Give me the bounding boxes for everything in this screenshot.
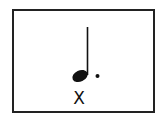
augmentation-dot (96, 74, 100, 78)
note-label: X (71, 88, 87, 108)
